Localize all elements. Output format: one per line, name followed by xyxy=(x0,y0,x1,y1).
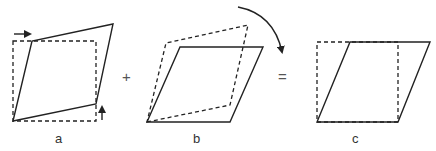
panel-c: c xyxy=(317,42,430,146)
panel-c-label: c xyxy=(352,131,359,146)
panel-a-label: a xyxy=(55,131,63,146)
panel-a: a xyxy=(13,24,113,146)
equals-operator: = xyxy=(278,68,287,85)
sheared-quad-solid xyxy=(13,24,113,121)
panel-b-label: b xyxy=(193,131,200,146)
shear-decomposition-diagram: a + b = c xyxy=(0,0,436,151)
original-square-dashed xyxy=(317,42,398,122)
panel-b: b xyxy=(147,7,282,146)
original-square-dashed xyxy=(13,41,96,121)
simple-shear-parallelogram-solid xyxy=(317,42,430,122)
rotated-quad-dashed xyxy=(147,25,248,122)
rotation-arrow-icon xyxy=(238,7,282,52)
plus-operator: + xyxy=(122,68,131,85)
